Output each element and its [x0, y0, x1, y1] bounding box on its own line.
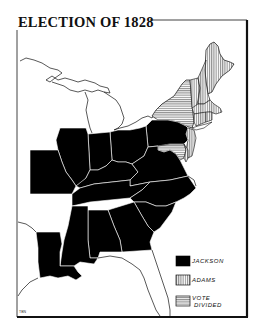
- legend-swatch-jackson: [176, 256, 190, 266]
- credit-mark: TBN: [19, 310, 26, 314]
- state-rhode-island: [206, 112, 212, 122]
- election-map: [0, 0, 258, 334]
- state-maine: [205, 42, 234, 94]
- legend: [176, 256, 190, 306]
- state-pennsylvania: [146, 120, 188, 147]
- legend-label-adams: ADAMS: [192, 277, 216, 283]
- legend-label-jackson: JACKSON: [192, 258, 224, 264]
- state-connecticut: [194, 112, 206, 126]
- legend-label-divided-2: DIVIDED: [194, 302, 222, 308]
- legend-swatch-adams: [176, 275, 190, 285]
- legend-label-divided-1: VOTE: [192, 295, 210, 301]
- legend-swatch-divided: [176, 296, 190, 306]
